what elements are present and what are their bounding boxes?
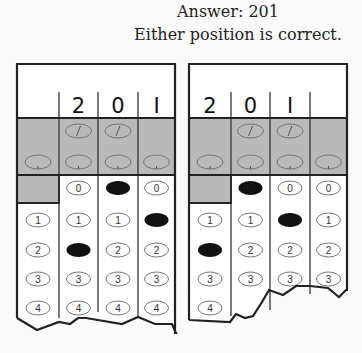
header-digit: 2: [72, 94, 85, 118]
bubble-label: 1: [35, 215, 41, 226]
bubble-label: 2: [115, 245, 121, 256]
shaded-band: [17, 118, 175, 175]
header-digit: I: [287, 94, 293, 118]
bubble-label: 3: [207, 274, 213, 285]
shaded-band: [189, 118, 347, 175]
bubble-label: 0: [154, 183, 160, 194]
bubble-label: 0: [76, 183, 82, 194]
bubble-label: 4: [207, 303, 213, 314]
bubble-label: 1: [115, 215, 121, 226]
bubble-label: 3: [326, 274, 332, 285]
bubble-label: 0: [326, 183, 332, 194]
header-digit: 2: [203, 94, 216, 118]
bubble-label: 3: [76, 274, 82, 285]
bubble-label: 4: [154, 303, 160, 314]
bubble-label: 2: [326, 245, 332, 256]
filled-bubble-1[interactable]: [145, 213, 169, 227]
bubble-label: 1: [326, 215, 332, 226]
left-grid: 20I0011122233334444: [17, 64, 176, 333]
header-digit: I: [153, 94, 159, 118]
zero-row-shaded-cell: [17, 175, 59, 203]
bubble-label: 4: [76, 303, 82, 314]
bubble-label: 3: [115, 274, 121, 285]
filled-bubble-1[interactable]: [278, 213, 302, 227]
bubble-label: 4: [115, 303, 121, 314]
bubble-label: 3: [248, 274, 254, 285]
bubble-label: 1: [248, 215, 254, 226]
bubble-label: 2: [287, 245, 293, 256]
bubble-label: 3: [287, 274, 293, 285]
header-digit: 0: [244, 94, 257, 118]
bubble-label: 3: [35, 274, 41, 285]
zero-row-shaded-cell: [189, 175, 231, 203]
filled-bubble-0[interactable]: [106, 181, 130, 195]
answer-grids: 20I001112223333444420I0011122233334: [0, 0, 362, 353]
bubble-label: 1: [207, 215, 213, 226]
bubble-label: 0: [287, 183, 293, 194]
bubble-label: 3: [154, 274, 160, 285]
right-grid: 20I0011122233334: [189, 64, 347, 322]
bubble-label: 2: [248, 245, 254, 256]
header-digit: 0: [111, 94, 124, 118]
filled-bubble-2[interactable]: [67, 243, 91, 257]
bubble-label: 2: [154, 245, 160, 256]
filled-bubble-2[interactable]: [198, 243, 222, 257]
bubble-label: 1: [76, 215, 82, 226]
bubble-label: 4: [35, 303, 41, 314]
filled-bubble-0[interactable]: [239, 181, 263, 195]
bubble-label: 2: [35, 245, 41, 256]
